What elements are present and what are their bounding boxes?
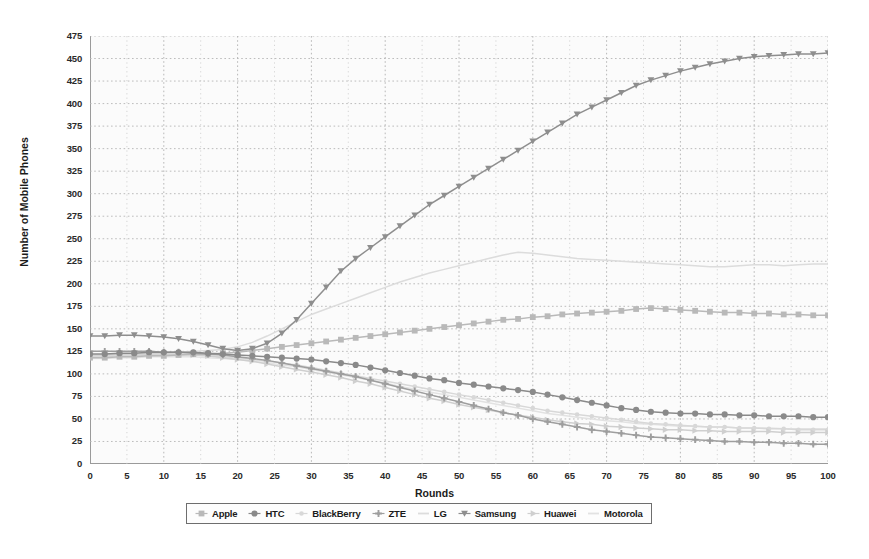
x-tick-label: 30 [296, 470, 326, 481]
y-tick-label: 75 [38, 390, 82, 401]
y-tick-label: 175 [38, 300, 82, 311]
x-tick-label: 85 [702, 470, 732, 481]
y-tick-label: 50 [38, 413, 82, 424]
y-tick-label: 275 [38, 210, 82, 221]
legend-item-motorola[interactable]: Motorola [587, 508, 643, 519]
y-tick-label: 125 [38, 345, 82, 356]
x-tick-label: 0 [75, 470, 105, 481]
data-series-layer [90, 36, 828, 464]
series-htc [90, 349, 828, 420]
y-tick-label: 100 [38, 368, 82, 379]
x-tick-label: 75 [629, 470, 659, 481]
y-tick-label: 425 [38, 75, 82, 86]
chart-figure: 0255075100125150175200225250275300325350… [0, 0, 869, 559]
y-tick-label: 25 [38, 435, 82, 446]
x-tick-label: 15 [186, 470, 216, 481]
y-tick-label: 350 [38, 143, 82, 154]
legend-marker-blackberry-icon [295, 508, 308, 519]
x-tick-label: 25 [260, 470, 290, 481]
legend-item-lg[interactable]: LG [417, 508, 447, 519]
y-tick-label: 300 [38, 188, 82, 199]
legend-marker-samsung-icon [458, 508, 471, 519]
x-tick-label: 10 [149, 470, 179, 481]
x-axis-title: Rounds [0, 487, 869, 499]
legend-label: Motorola [604, 508, 643, 519]
x-tick-label: 60 [518, 470, 548, 481]
y-tick-label: 250 [38, 233, 82, 244]
legend-item-zte[interactable]: ZTE [372, 508, 406, 519]
y-tick-label: 150 [38, 323, 82, 334]
y-tick-label: 375 [38, 120, 82, 131]
x-tick-label: 65 [555, 470, 585, 481]
legend-label: Apple [212, 508, 237, 519]
x-tick-label: 70 [592, 470, 622, 481]
x-tick-label: 45 [407, 470, 437, 481]
x-tick-label: 90 [739, 470, 769, 481]
x-tick-label: 95 [776, 470, 806, 481]
y-axis-title: Number of Mobile Phones [18, 112, 30, 292]
x-tick-label: 80 [665, 470, 695, 481]
y-tick-label: 0 [38, 458, 82, 469]
legend-marker-motorola-icon [587, 508, 600, 519]
legend-marker-zte-icon [372, 508, 385, 519]
y-tick-label: 325 [38, 165, 82, 176]
chart-legend: AppleHTCBlackBerryZTELGSamsungHuaweiMoto… [186, 503, 652, 524]
x-tick-label: 20 [223, 470, 253, 481]
legend-marker-htc-icon [248, 508, 261, 519]
y-tick-label: 225 [38, 255, 82, 266]
legend-label: HTC [265, 508, 284, 519]
legend-label: BlackBerry [312, 508, 360, 519]
legend-label: LG [434, 508, 447, 519]
legend-item-htc[interactable]: HTC [248, 508, 284, 519]
legend-item-blackberry[interactable]: BlackBerry [295, 508, 360, 519]
x-tick-label: 35 [333, 470, 363, 481]
y-tick-label: 400 [38, 98, 82, 109]
y-tick-label: 475 [38, 30, 82, 41]
x-tick-label: 40 [370, 470, 400, 481]
x-tick-label: 55 [481, 470, 511, 481]
legend-marker-huawei-icon [527, 508, 540, 519]
legend-item-apple[interactable]: Apple [195, 508, 237, 519]
legend-marker-apple-icon [195, 508, 208, 519]
legend-item-samsung[interactable]: Samsung [458, 508, 516, 519]
legend-label: ZTE [389, 508, 406, 519]
x-tick-label: 100 [813, 470, 843, 481]
plot-area [90, 36, 828, 464]
x-tick-label: 5 [112, 470, 142, 481]
series-blackberry [90, 353, 828, 432]
y-tick-label: 200 [38, 278, 82, 289]
y-tick-label: 450 [38, 53, 82, 64]
x-tick-label: 50 [444, 470, 474, 481]
legend-label: Samsung [475, 508, 516, 519]
series-samsung [90, 50, 828, 353]
legend-label: Huawei [544, 508, 576, 519]
series-lg [90, 252, 828, 356]
legend-item-huawei[interactable]: Huawei [527, 508, 576, 519]
legend-marker-lg-icon [417, 508, 430, 519]
